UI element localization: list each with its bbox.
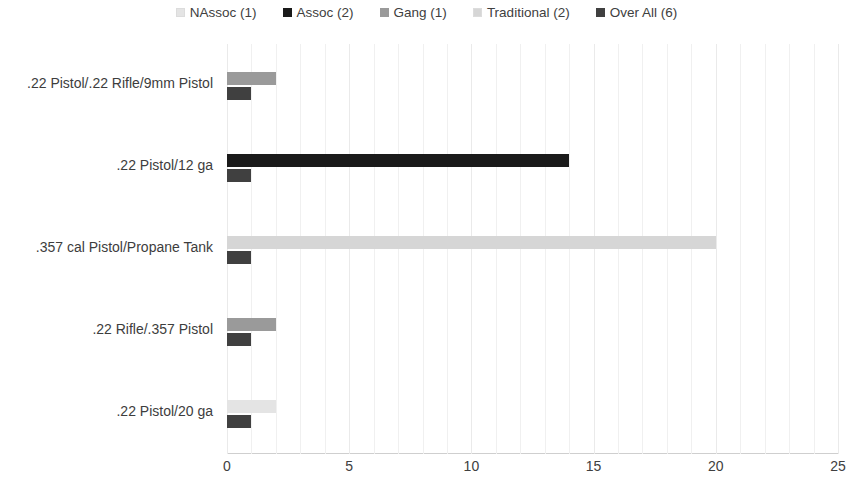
bar[interactable] [227,169,251,182]
bar[interactable] [227,72,276,85]
legend-item[interactable]: Traditional (2) [473,5,570,20]
bar-group [227,44,838,126]
bar[interactable] [227,415,251,428]
category-label: .22 Pistol/.22 Rifle/9mm Pistol [0,76,213,91]
plot-area [227,44,838,454]
legend-swatch-icon [380,8,389,17]
x-axis-tick: 15 [586,458,602,474]
legend-item[interactable]: Assoc (2) [283,5,354,20]
x-axis-tick: 10 [464,458,480,474]
legend-item[interactable]: Gang (1) [380,5,447,20]
chart-legend: NAssoc (1)Assoc (2)Gang (1)Traditional (… [0,5,853,20]
x-axis-tick: 20 [708,458,724,474]
bar[interactable] [227,251,251,264]
legend-label: Over All (6) [610,5,678,20]
bar-group [227,126,838,208]
category-label: .22 Pistol/20 ga [0,404,213,419]
category-label: .357 cal Pistol/Propane Tank [0,240,213,255]
x-axis-tick-labels: 0510152025 [227,458,838,480]
gridline [838,44,839,454]
bar[interactable] [227,333,251,346]
bar-chart: NAssoc (1)Assoc (2)Gang (1)Traditional (… [0,0,853,482]
legend-swatch-icon [596,8,605,17]
bar-group [227,208,838,290]
category-label: .22 Pistol/12 ga [0,158,213,173]
legend-label: NAssoc (1) [190,5,257,20]
bar-group [227,290,838,372]
legend-label: Gang (1) [394,5,447,20]
legend-item[interactable]: NAssoc (1) [176,5,257,20]
bar-group [227,372,838,454]
bar[interactable] [227,87,251,100]
x-axis-tick: 0 [223,458,231,474]
bar[interactable] [227,318,276,331]
x-axis-tick: 25 [830,458,846,474]
bar[interactable] [227,154,569,167]
category-label: .22 Rifle/.357 Pistol [0,322,213,337]
legend-swatch-icon [473,8,482,17]
legend-swatch-icon [176,8,185,17]
bar[interactable] [227,236,716,249]
legend-label: Traditional (2) [487,5,570,20]
bar[interactable] [227,400,276,413]
legend-item[interactable]: Over All (6) [596,5,678,20]
legend-swatch-icon [283,8,292,17]
x-axis-tick: 5 [345,458,353,474]
legend-label: Assoc (2) [297,5,354,20]
